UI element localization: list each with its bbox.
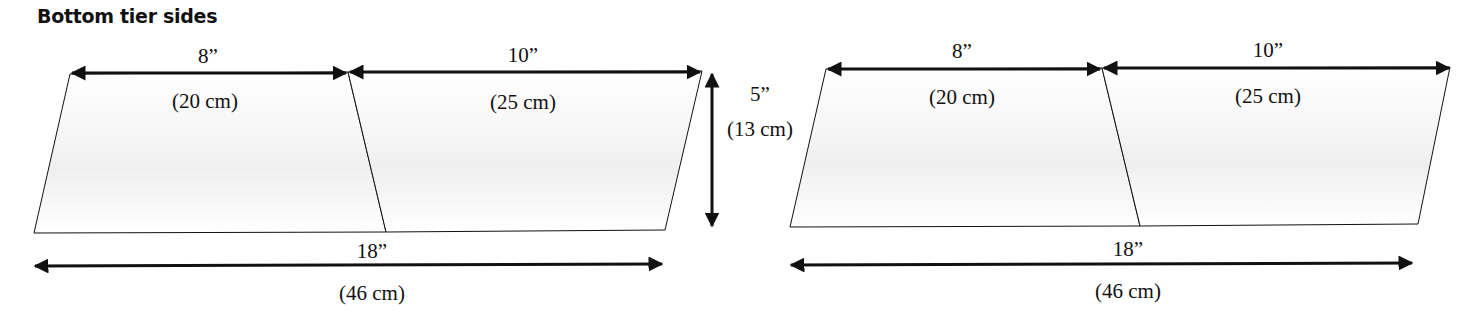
left-top-right-inches: 10” (508, 43, 538, 67)
pattern-diagram: 8” (20 cm) 10” (25 cm) 5” (13 cm) 18” (4… (0, 0, 1482, 316)
right-bottom-inches: 18” (1113, 237, 1143, 261)
left-bottom-dimension-arrow (35, 264, 662, 266)
left-top-left-cm: (20 cm) (172, 89, 238, 113)
right-bottom-cm: (46 cm) (1095, 279, 1161, 303)
left-panel: 8” (20 cm) 10” (25 cm) 5” (13 cm) 18” (4… (34, 43, 793, 305)
right-top-right-inches: 10” (1253, 38, 1283, 62)
right-top-left-inches: 8” (952, 39, 972, 63)
left-height-cm: (13 cm) (727, 117, 793, 141)
left-height-inches: 5” (750, 82, 770, 106)
right-bottom-dimension-arrow (791, 263, 1412, 265)
left-top-left-inches: 8” (198, 44, 218, 68)
left-bottom-cm: (46 cm) (339, 281, 405, 305)
diagram-canvas: Bottom tier sides 8” (20 cm) 10 (0, 0, 1482, 316)
left-top-right-cm: (25 cm) (490, 90, 556, 114)
right-panel: 8” (20 cm) 10” (25 cm) 18” (46 cm) (790, 38, 1450, 303)
right-top-right-cm: (25 cm) (1235, 84, 1301, 108)
left-bottom-inches: 18” (357, 239, 387, 263)
right-top-left-cm: (20 cm) (929, 85, 995, 109)
